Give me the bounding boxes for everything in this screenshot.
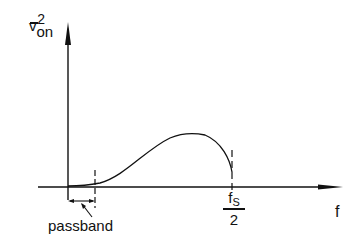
fs-subscript: S <box>232 196 239 208</box>
y-label-superscript: 2 <box>37 11 45 27</box>
passband-arrow-left-icon <box>68 199 74 203</box>
passband-arrow-right-icon <box>89 199 95 203</box>
x-axis-arrow-icon <box>318 185 343 190</box>
fraction-bar <box>223 208 245 210</box>
y-axis-label: von2 <box>29 18 61 33</box>
y-axis-arrow-icon <box>65 22 71 45</box>
y-label-base: v <box>29 17 37 34</box>
fs-denominator: 2 <box>223 212 245 227</box>
x-axis-label: f <box>335 204 339 220</box>
noise-curve <box>68 134 232 186</box>
noise-spectrum-diagram <box>0 0 358 248</box>
passband-label: passband <box>48 218 113 233</box>
fs-half-label: fS 2 <box>223 190 245 227</box>
